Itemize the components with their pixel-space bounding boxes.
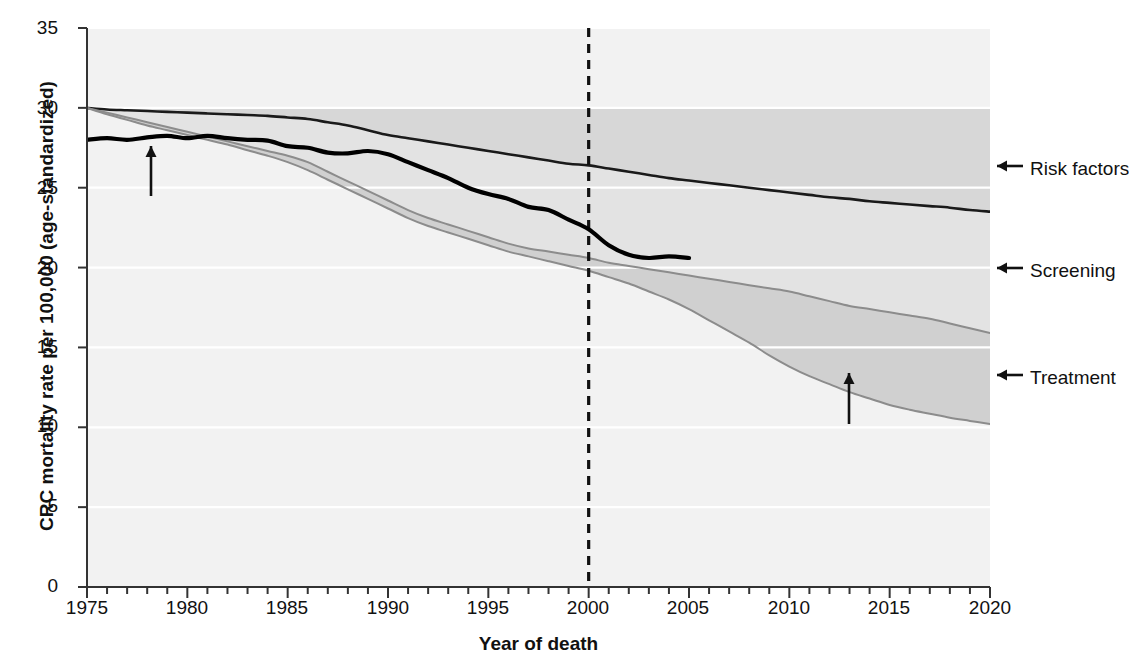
annotation-arrow-head <box>997 263 1007 274</box>
crc-mortality-figure: CRC mortality rate per 100,000 (age-stan… <box>0 0 1129 668</box>
annotation-arrow-head <box>997 161 1007 172</box>
plot-area <box>0 0 1129 668</box>
annotation-arrow-head <box>997 370 1007 381</box>
